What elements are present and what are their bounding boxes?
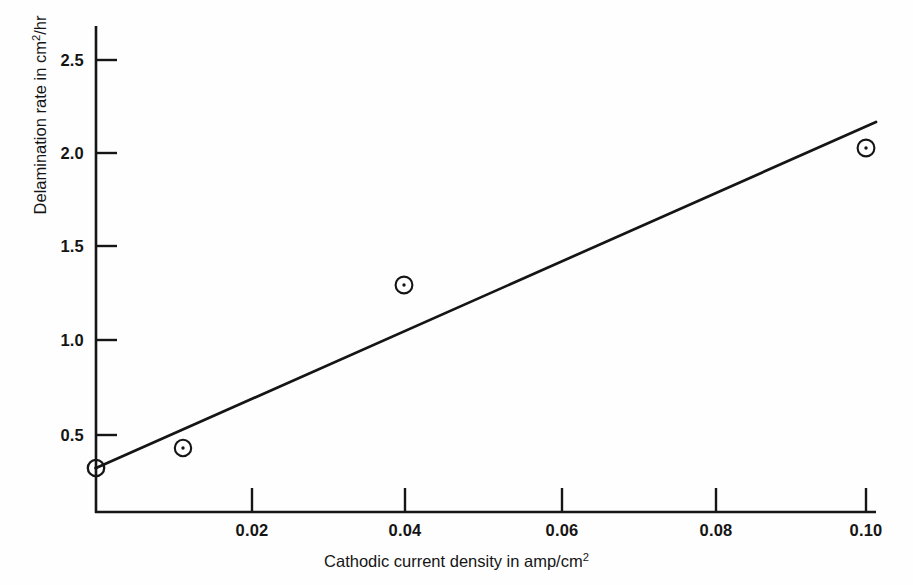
y-axis-ticks [97,60,117,435]
y-axis-label-exponent: 2 [29,35,41,41]
data-point-marker [858,140,875,157]
x-tick-label: 0.04 [389,521,422,540]
x-axis-label-exponent: 2 [583,551,589,563]
x-axis-label: Cathodic current density in amp/cm2 [0,552,913,571]
scatter-plot-canvas [0,0,913,585]
x-tick-label: 0.02 [236,521,269,540]
chart-figure: 2.5 2.0 1.5 1.0 0.5 0.02 0.04 0.06 0.08 … [0,0,913,585]
data-point-marker [175,440,191,456]
y-axis-label: Delamination rate in cm2/hr [25,0,55,365]
trend-line [96,122,876,468]
y-axis-label-inner: Delamination rate in cm2/hr [31,16,50,215]
x-axis-label-text: Cathodic current density in amp/cm [324,552,583,570]
x-tick-label: 0.06 [546,521,579,540]
y-tick-label: 0.5 [28,426,84,445]
y-axis-label-unit: /hr [31,16,49,35]
x-tick-label: 0.10 [850,521,883,540]
y-axis-label-text: Delamination rate in cm [31,41,49,214]
x-tick-label: 0.08 [700,521,733,540]
x-axis-ticks [252,488,866,511]
data-point-marker [396,277,413,294]
